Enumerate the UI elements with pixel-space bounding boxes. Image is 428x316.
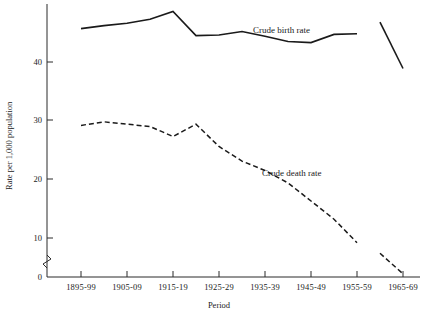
x-tick-label-7: 1955-59 (342, 282, 372, 292)
x-tick-label-2: 1905-09 (112, 282, 142, 292)
crude-death-rate-line (81, 122, 357, 243)
series-crude-birth-rate (81, 12, 403, 69)
crude-birth-rate-line (81, 12, 357, 43)
y-tick-label-30: 30 (34, 115, 43, 125)
y-tick-label-40: 40 (34, 57, 43, 67)
x-tick-label-4: 1925-29 (204, 282, 234, 292)
x-axis-ticks (81, 271, 403, 277)
vital-rates-line-chart: 40 30 20 10 0 Rate per 1,000 population … (0, 0, 428, 316)
crude-birth-rate-label: Crude birth rate (253, 25, 310, 35)
y-tick-label-10: 10 (34, 233, 43, 243)
x-axis-title: Period (208, 300, 231, 310)
x-tick-label-8: 1965-69 (388, 282, 418, 292)
x-tick-label-3: 1915-19 (158, 282, 188, 292)
series-crude-death-rate (81, 122, 403, 274)
chart-container: 40 30 20 10 0 Rate per 1,000 population … (0, 0, 428, 316)
y-tick-label-0: 0 (38, 272, 42, 282)
x-tick-label-6: 1945-49 (296, 282, 326, 292)
crude-death-rate-line-segment-2 (380, 253, 403, 273)
x-axis-tick-labels: 1895-99 1905-09 1915-19 1925-29 1935-39 … (66, 282, 418, 292)
x-tick-label-5: 1935-39 (250, 282, 280, 292)
x-tick-label-1: 1895-99 (66, 282, 96, 292)
y-axis-title: Rate per 1,000 population (4, 101, 14, 190)
crude-death-rate-label: Crude death rate (262, 168, 321, 178)
crude-birth-rate-line-segment-2 (380, 22, 403, 68)
y-tick-label-20: 20 (34, 174, 43, 184)
y-axis-ticks: 40 30 20 10 0 (34, 57, 54, 282)
